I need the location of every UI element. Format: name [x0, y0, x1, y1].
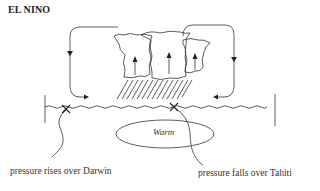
cloud-middle	[141, 31, 190, 79]
right-circulation-loop	[183, 25, 234, 97]
darwin-leader	[52, 110, 66, 157]
left-circulation-loop	[70, 27, 118, 97]
cloud-right	[183, 39, 210, 73]
cloud-left	[114, 34, 152, 78]
darwin-label: pressure rises over Darwin	[10, 166, 112, 176]
tahiti-label: pressure falls over Tahiti	[198, 168, 292, 178]
warm-label: Warm	[153, 127, 174, 137]
rain-hatching	[117, 80, 192, 99]
el-nino-diagram	[0, 0, 320, 191]
tahiti-leader	[175, 108, 203, 165]
sea-surface	[45, 106, 267, 109]
